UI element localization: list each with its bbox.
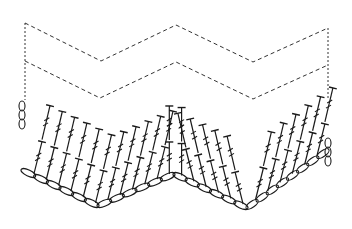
treble-stitch-icon	[104, 134, 116, 169]
treble-stitch-icon	[255, 167, 267, 200]
treble-stitch-icon	[54, 111, 66, 146]
treble-stitch-icon	[153, 115, 165, 150]
treble-stitch-icon	[140, 121, 152, 156]
treble-stitch-icon	[79, 122, 91, 157]
treble-stitch-icon	[263, 131, 275, 166]
treble-stitch-icon	[325, 87, 337, 122]
treble-stitch-icon	[268, 158, 280, 191]
treble-stitch-icon	[59, 152, 71, 185]
chain-stitch-icon	[295, 161, 310, 174]
treble-stitch-icon	[165, 142, 173, 174]
crochet-chart	[0, 0, 352, 229]
foundation-chain	[20, 147, 331, 211]
treble-stitch-icon	[305, 132, 317, 165]
treble-stitch-icon	[182, 148, 194, 181]
treble-stitch-icon	[276, 122, 288, 157]
treble-stitch-icon	[42, 105, 54, 140]
treble-stitch-icon	[194, 154, 206, 187]
chain-stitch-icon	[244, 198, 259, 211]
treble-stitch-icon	[186, 118, 198, 153]
treble-stitch-icon	[313, 96, 325, 131]
repeat-rows-dashed	[25, 23, 328, 100]
crochet-chart-canvas	[0, 0, 352, 229]
treble-stitch-icon	[207, 160, 219, 193]
treble-stitches	[34, 87, 337, 204]
treble-stitch-icon	[34, 141, 46, 174]
treble-stitch-icon	[116, 131, 128, 166]
treble-stitch-icon	[219, 165, 231, 198]
treble-stitch-icon	[223, 135, 235, 170]
treble-stitch-icon	[174, 112, 186, 147]
treble-stitch-icon	[71, 158, 83, 191]
treble-stitch-icon	[231, 171, 243, 204]
row-repeat-lower	[25, 61, 328, 99]
treble-stitch-icon	[178, 144, 186, 176]
treble-stitch-icon	[96, 170, 108, 203]
treble-stitch-icon	[317, 123, 329, 156]
treble-stitch-icon	[288, 113, 300, 148]
treble-stitch-icon	[67, 116, 79, 151]
treble-stitch-icon	[300, 105, 312, 140]
treble-stitch-icon	[83, 164, 95, 197]
chain-stitch-icon	[265, 183, 280, 196]
treble-stitch-icon	[128, 126, 140, 161]
treble-stitch-icon	[199, 124, 211, 159]
row-repeat-upper	[25, 23, 328, 62]
treble-stitch-icon	[46, 147, 58, 180]
chain-stitch-icon	[305, 154, 320, 167]
chain-stitch-icon	[275, 176, 290, 189]
treble-stitch-icon	[165, 110, 177, 145]
treble-stitch-icon	[91, 128, 103, 163]
treble-stitch-icon	[211, 130, 223, 165]
